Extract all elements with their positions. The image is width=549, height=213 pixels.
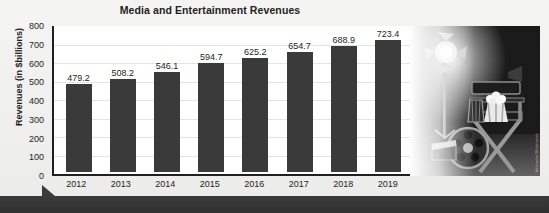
y-tick-label: 600	[29, 59, 44, 69]
bar-series: 479.2508.2546.1594.7625.2654.7688.9723.4	[57, 26, 411, 172]
bar	[287, 52, 313, 171]
bar-group: 723.4	[375, 26, 401, 172]
bar-value-label: 723.4	[377, 29, 400, 39]
y-axis-tick-labels: 800 700 600 500 400 300 200 100 0	[0, 26, 48, 176]
bar-value-label: 508.2	[112, 68, 135, 78]
y-tick-label: 400	[29, 96, 44, 106]
chart-figure: Media and Entertainment Revenues Revenue…	[0, 0, 549, 213]
y-tick-label: 800	[29, 21, 44, 31]
x-tick-label: 2016	[241, 179, 267, 189]
bar	[198, 63, 224, 171]
bar-value-label: 594.7	[200, 52, 223, 62]
chart-title: Media and Entertainment Revenues	[0, 4, 420, 16]
bar-group: 479.2	[66, 26, 92, 172]
bar-group: 654.7	[287, 26, 313, 172]
bar-value-label: 654.7	[288, 41, 311, 51]
bar	[242, 58, 268, 172]
bar	[375, 40, 401, 172]
y-tick-label: 200	[29, 134, 44, 144]
bar-value-label: 479.2	[67, 73, 90, 83]
y-tick-label: 0	[39, 171, 44, 181]
y-tick-label: 700	[29, 40, 44, 50]
bar-group: 546.1	[154, 26, 180, 172]
bar-group: 688.9	[331, 26, 357, 172]
bar-group: 594.7	[198, 26, 224, 172]
bar-group: 625.2	[242, 26, 268, 172]
x-tick-label: 2015	[197, 179, 223, 189]
y-tick-label: 500	[29, 77, 44, 87]
x-tick-label: 2017	[286, 179, 312, 189]
bar-value-label: 625.2	[244, 47, 267, 57]
film-production-photo: Aleksandar/Shutterstock	[410, 26, 540, 176]
x-tick-label: 2018	[330, 179, 356, 189]
x-tick-label: 2013	[108, 179, 134, 189]
footer-band	[0, 196, 549, 213]
x-axis-tick-labels: 20122013201420152016201720182019	[54, 179, 410, 195]
y-tick-label: 100	[29, 152, 44, 162]
x-tick-label: 2012	[63, 179, 89, 189]
y-tick-label: 300	[29, 115, 44, 125]
bar	[66, 84, 92, 171]
photo-credit: Aleksandar/Shutterstock	[535, 133, 539, 172]
x-tick-label: 2014	[152, 179, 178, 189]
band-pointer	[42, 185, 55, 196]
bar-value-label: 546.1	[156, 61, 179, 71]
plot-area: 479.2508.2546.1594.7625.2654.7688.9723.4	[52, 26, 410, 176]
film-production-photo-art	[410, 26, 540, 176]
bar	[110, 79, 136, 171]
bar-value-label: 688.9	[332, 35, 355, 45]
bar	[154, 72, 180, 171]
bar-group: 508.2	[110, 26, 136, 172]
x-tick-label: 2019	[375, 179, 401, 189]
bar	[331, 46, 357, 171]
